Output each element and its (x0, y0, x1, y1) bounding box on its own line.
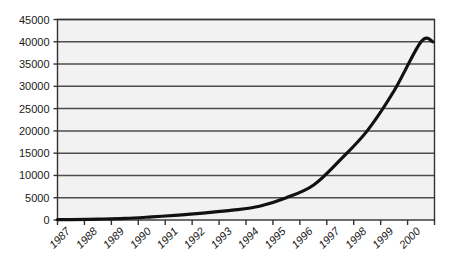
chart-container: 0500010000150002000025000300003500040000… (0, 0, 453, 273)
y-axis-label: 35000 (19, 58, 50, 70)
y-axis-label: 0 (43, 214, 49, 226)
y-axis-label: 45000 (19, 14, 50, 26)
y-axis-label: 25000 (19, 103, 50, 115)
y-axis-label: 5000 (25, 192, 49, 204)
y-axis-label: 10000 (19, 169, 50, 181)
line-chart: 0500010000150002000025000300003500040000… (0, 0, 453, 273)
y-axis-label: 30000 (19, 80, 50, 92)
plot-area-background (58, 20, 435, 221)
y-axis-label: 15000 (19, 147, 50, 159)
y-axis-label: 20000 (19, 125, 50, 137)
y-axis-label: 40000 (19, 36, 50, 48)
